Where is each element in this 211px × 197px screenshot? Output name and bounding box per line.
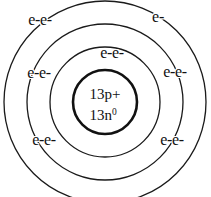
atom-shells-svg: 13p+ 13n0 <box>0 0 211 197</box>
electrons-outer-top-left: e-e- <box>28 12 52 28</box>
electrons-outer-middle-right: e-e- <box>163 64 187 80</box>
electrons-shell2-top: e-e- <box>100 45 124 61</box>
electrons-outer-top-right: e- <box>152 9 164 25</box>
bohr-model-diagram: 13p+ 13n0 e-e- e- e-e- e-e- e-e- e-e- e-… <box>0 0 211 197</box>
nucleus-neutrons-superscript: 0 <box>112 107 117 117</box>
nucleus-neutrons-value: 13n <box>89 107 112 123</box>
electrons-outer-middle-left: e-e- <box>27 65 51 81</box>
electrons-outer-bottom-left: e-e- <box>32 132 56 148</box>
nucleus-protons-label: 13p+ <box>90 86 121 102</box>
nucleus-circle <box>73 70 137 134</box>
electrons-outer-bottom-right: e-e- <box>160 132 184 148</box>
